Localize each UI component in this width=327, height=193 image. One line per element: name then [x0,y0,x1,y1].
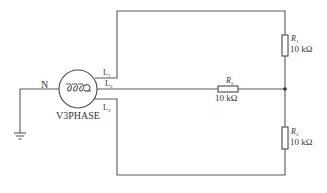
l2-label: L2 [105,79,113,89]
resistor-r2 [218,86,238,92]
source-circle [59,70,97,108]
l1-wire [95,11,285,78]
ground-icon [14,133,26,139]
r2-name-label: R2 [225,76,234,86]
source-name-label: V3PHASE [56,110,100,121]
l3-wire [95,99,285,175]
r3-name-label: R3 [290,127,299,137]
l3-label: L3 [103,103,111,113]
neutral-wire [20,89,59,133]
circuit-diagram: V3PHASE N L1 L2 L3 R2 10 kΩ R1 10 kΩ R3 … [0,0,327,193]
l1-label: L1 [103,68,111,78]
junction-dot [283,87,287,91]
r1-value-label: 10 kΩ [290,44,313,54]
r2-value-label: 10 kΩ [215,93,238,103]
neutral-label: N [41,79,48,90]
three-phase-source: V3PHASE N [41,70,100,121]
resistor-r3 [282,127,288,149]
r3-value-label: 10 kΩ [290,137,313,147]
r1-name-label: R1 [290,34,299,44]
resistor-r1 [282,35,288,56]
